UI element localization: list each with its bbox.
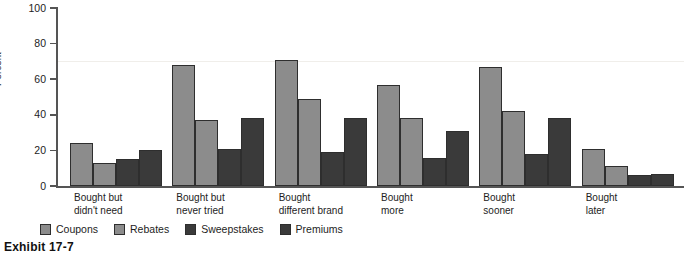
bar[interactable]	[172, 65, 195, 186]
bar-group	[479, 8, 571, 186]
chart-legend: CouponsRebatesSweepstakesPremiums	[40, 224, 343, 235]
bar[interactable]	[139, 150, 162, 186]
y-axis-tick-label: 40	[2, 109, 46, 120]
bar[interactable]	[275, 60, 298, 186]
y-axis-tick-label: 80	[2, 38, 46, 49]
bar[interactable]	[195, 120, 218, 186]
bar[interactable]	[446, 131, 469, 186]
bar-group	[377, 8, 469, 186]
bar[interactable]	[344, 118, 367, 186]
y-axis-tick-label: 100	[2, 3, 46, 14]
x-axis-category-label: Bought but didn't need	[74, 192, 123, 217]
bar[interactable]	[218, 149, 241, 186]
legend-label: Coupons	[56, 224, 98, 235]
legend-label: Rebates	[130, 224, 169, 235]
exhibit-caption: Exhibit 17-7	[4, 240, 74, 254]
x-axis-line	[56, 186, 684, 188]
bar[interactable]	[502, 111, 525, 186]
legend-label: Sweepstakes	[201, 224, 263, 235]
y-axis-tick-label: 0	[2, 181, 46, 192]
x-axis-category-label: Bought more	[381, 192, 413, 217]
legend-swatch-icon	[114, 224, 125, 235]
bar[interactable]	[70, 143, 93, 186]
legend-item-rebates[interactable]: Rebates	[114, 224, 169, 235]
x-axis-category-label: Bought sooner	[483, 192, 515, 217]
bar-group	[275, 8, 367, 186]
bar[interactable]	[605, 166, 628, 186]
y-axis-tick-label: 60	[2, 74, 46, 85]
bar[interactable]	[423, 158, 446, 186]
y-axis-tick-label: 20	[2, 145, 46, 156]
bar-group	[172, 8, 264, 186]
bar[interactable]	[116, 159, 139, 186]
legend-swatch-icon	[185, 224, 196, 235]
bar[interactable]	[628, 175, 651, 186]
bar[interactable]	[651, 174, 674, 186]
bar-chart-figure: Percent 020406080100 Bought but didn't n…	[0, 0, 687, 256]
bar[interactable]	[321, 152, 344, 186]
legend-item-premiums[interactable]: Premiums	[280, 224, 343, 235]
bar[interactable]	[241, 118, 264, 186]
bar-group	[70, 8, 162, 186]
bar[interactable]	[525, 154, 548, 186]
legend-item-sweepstakes[interactable]: Sweepstakes	[185, 224, 263, 235]
bar[interactable]	[93, 163, 116, 186]
legend-swatch-icon	[280, 224, 291, 235]
bar[interactable]	[377, 85, 400, 186]
bar[interactable]	[582, 149, 605, 186]
bar[interactable]	[548, 118, 571, 186]
y-axis-tick-labels: 020406080100	[0, 0, 50, 256]
legend-label: Premiums	[296, 224, 343, 235]
x-axis-category-label: Bought later	[586, 192, 618, 217]
legend-item-coupons[interactable]: Coupons	[40, 224, 98, 235]
x-axis-category-label: Bought but never tried	[176, 192, 224, 217]
legend-swatch-icon	[40, 224, 51, 235]
x-axis-category-label: Bought different brand	[279, 192, 343, 217]
bar[interactable]	[298, 99, 321, 186]
bar[interactable]	[400, 118, 423, 186]
bar-group	[582, 8, 674, 186]
bar-groups	[56, 8, 684, 186]
x-axis-category-labels: Bought but didn't needBought but never t…	[56, 192, 684, 222]
bar[interactable]	[479, 67, 502, 186]
